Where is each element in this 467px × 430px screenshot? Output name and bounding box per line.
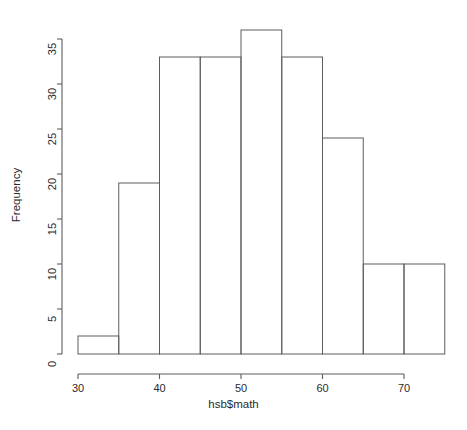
chart-canvas (0, 0, 467, 430)
y-tick-label: 10 (46, 263, 58, 285)
x-tick-label: 70 (392, 382, 416, 394)
y-tick-label: 20 (46, 173, 58, 195)
y-tick-label: 25 (46, 128, 58, 150)
histogram-bar (200, 57, 241, 354)
histogram-bar (404, 264, 445, 354)
y-tick-label: 35 (46, 38, 58, 60)
y-tick-label: 30 (46, 83, 58, 105)
x-tick-label: 50 (229, 382, 253, 394)
x-tick-label: 40 (148, 382, 172, 394)
histogram-bar (78, 336, 119, 354)
histogram-bar (282, 57, 323, 354)
y-tick-label: 5 (46, 308, 58, 330)
y-tick-label: 0 (46, 353, 58, 375)
y-tick-label: 15 (46, 218, 58, 240)
histogram-bar (323, 138, 364, 354)
plot-area: Frequency hsb$math 05101520253035 304050… (0, 0, 467, 430)
histogram-bar (363, 264, 404, 354)
y-axis-title-wrapper: Frequency (8, 155, 24, 235)
histogram-bar (241, 30, 282, 354)
histogram-figure: Frequency hsb$math 05101520253035 304050… (0, 0, 467, 430)
x-tick-label: 30 (66, 382, 90, 394)
x-tick-label: 60 (311, 382, 335, 394)
histogram-bar (160, 57, 201, 354)
histogram-bar (119, 183, 160, 354)
y-axis-title: Frequency (10, 168, 22, 222)
x-axis-title: hsb$math (0, 398, 467, 410)
